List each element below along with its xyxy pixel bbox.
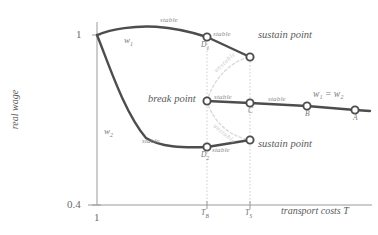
x-axis-tick-origin: 1 bbox=[94, 212, 100, 223]
curve-w1-equals-w2 bbox=[207, 101, 370, 111]
curve-w2 bbox=[97, 35, 207, 147]
point-label-d1: D1 bbox=[201, 41, 209, 51]
curve-label-w1-equals-w2: w₁ = w₂ bbox=[313, 90, 343, 100]
x-axis-title: transport costs T bbox=[281, 206, 349, 216]
bifurcation-plot: .ax { stroke:#9a9a9a; stroke-width:1; fi… bbox=[0, 0, 378, 235]
annotation-stable-break-c: stable bbox=[214, 94, 232, 101]
point-break bbox=[203, 97, 210, 104]
x-tick-label-tb-sub: B bbox=[205, 213, 208, 219]
curve-label-w2: w2 bbox=[104, 127, 113, 138]
annotation-stable-w1: stable bbox=[160, 17, 178, 24]
point-label-d2-sub: 2 bbox=[206, 155, 209, 161]
annotation-stable-w2: stable bbox=[142, 138, 160, 145]
annotation-stable-d2-sustain: stable bbox=[212, 147, 230, 154]
x-tick-label-ts: TS bbox=[245, 209, 252, 219]
point-label-a: A bbox=[353, 114, 358, 122]
annotation-stable-c-b: stable bbox=[268, 96, 286, 103]
annotation-stable-d1-sustain: stable bbox=[213, 31, 231, 38]
annotation-sustain-point-lower: sustain point bbox=[258, 139, 312, 150]
annotation-break-point: break point bbox=[148, 94, 196, 105]
point-label-c: C bbox=[248, 107, 253, 115]
figure-canvas: .ax { stroke:#9a9a9a; stroke-width:1; fi… bbox=[0, 0, 378, 235]
annotation-sustain-point-upper: sustain point bbox=[258, 30, 312, 41]
curve-w1 bbox=[97, 27, 207, 37]
y-axis-tick-top: 1 bbox=[76, 29, 82, 40]
point-sustain-upper bbox=[246, 53, 253, 60]
curve-label-w1: w1 bbox=[124, 36, 133, 47]
y-axis-tick-bottom: 0.4 bbox=[67, 199, 81, 210]
x-tick-label-tb: TB bbox=[201, 209, 209, 219]
y-axis-title: real wage bbox=[9, 80, 20, 140]
curve-label-w1-sub: 1 bbox=[130, 41, 133, 47]
point-sustain-lower bbox=[246, 136, 253, 143]
point-label-d1-sub: 1 bbox=[206, 45, 209, 51]
curve-label-w2-sub: 2 bbox=[110, 132, 113, 138]
point-label-b: B bbox=[305, 110, 310, 118]
x-tick-label-ts-sub: S bbox=[249, 213, 252, 219]
point-label-d2: D2 bbox=[201, 151, 209, 161]
